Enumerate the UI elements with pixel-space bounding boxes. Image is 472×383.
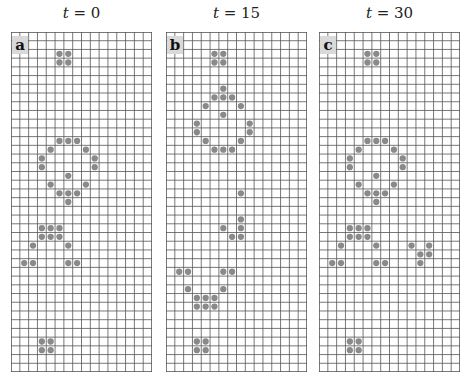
live-cell bbox=[364, 51, 370, 57]
live-cell bbox=[65, 242, 71, 248]
live-cell bbox=[48, 147, 54, 153]
grid-lines bbox=[166, 32, 307, 372]
live-cell bbox=[203, 303, 209, 309]
live-cell bbox=[203, 103, 209, 109]
live-cell bbox=[356, 181, 362, 187]
cell-grid bbox=[166, 32, 307, 372]
live-cell bbox=[373, 199, 379, 205]
live-cell bbox=[56, 234, 62, 240]
live-cell bbox=[211, 147, 217, 153]
panel-c-grid bbox=[319, 32, 460, 372]
live-cell bbox=[203, 347, 209, 353]
panel-b-label: b bbox=[167, 36, 183, 54]
live-cell bbox=[185, 286, 191, 292]
live-cell bbox=[220, 59, 226, 65]
live-cell bbox=[382, 138, 388, 144]
live-cell bbox=[194, 120, 200, 126]
live-cell bbox=[220, 112, 226, 118]
live-cell bbox=[364, 190, 370, 196]
live-cell bbox=[347, 164, 353, 170]
live-cell bbox=[417, 251, 423, 257]
live-cell bbox=[229, 269, 235, 275]
live-cell bbox=[356, 338, 362, 344]
live-cell bbox=[400, 155, 406, 161]
live-cell bbox=[65, 190, 71, 196]
live-cell bbox=[356, 234, 362, 240]
live-cell bbox=[74, 190, 80, 196]
live-cell bbox=[211, 59, 217, 65]
live-cell bbox=[39, 155, 45, 161]
live-cell bbox=[211, 303, 217, 309]
live-cell bbox=[39, 338, 45, 344]
live-cell bbox=[347, 225, 353, 231]
live-cell bbox=[48, 347, 54, 353]
panel-b-title: t = 15 bbox=[166, 4, 307, 26]
live-cell bbox=[39, 234, 45, 240]
live-cell bbox=[211, 51, 217, 57]
live-cell bbox=[39, 225, 45, 231]
live-cell bbox=[373, 59, 379, 65]
live-cell bbox=[65, 199, 71, 205]
live-cell bbox=[356, 347, 362, 353]
live-cell bbox=[194, 303, 200, 309]
live-cell bbox=[220, 225, 226, 231]
live-cell bbox=[176, 269, 182, 275]
live-cell bbox=[347, 234, 353, 240]
live-cell bbox=[30, 242, 36, 248]
panel-a-title: t = 0 bbox=[11, 4, 152, 26]
live-cell bbox=[220, 286, 226, 292]
grid-lines bbox=[11, 32, 152, 372]
live-cell bbox=[74, 138, 80, 144]
live-cell bbox=[229, 94, 235, 100]
live-cell bbox=[65, 173, 71, 179]
live-cell bbox=[194, 295, 200, 301]
live-cell bbox=[229, 147, 235, 153]
live-cell bbox=[220, 86, 226, 92]
live-cell bbox=[338, 242, 344, 248]
live-cell bbox=[48, 225, 54, 231]
live-cell bbox=[356, 225, 362, 231]
live-cell bbox=[238, 225, 244, 231]
live-cell bbox=[364, 225, 370, 231]
live-cell bbox=[220, 269, 226, 275]
time-value: = 0 bbox=[69, 4, 101, 22]
live-cell bbox=[220, 147, 226, 153]
live-cell bbox=[203, 338, 209, 344]
live-cell bbox=[373, 190, 379, 196]
live-cell bbox=[194, 129, 200, 135]
live-cell bbox=[347, 155, 353, 161]
live-cell bbox=[373, 242, 379, 248]
live-cell bbox=[247, 129, 253, 135]
live-cell bbox=[48, 181, 54, 187]
live-cell bbox=[56, 190, 62, 196]
live-cell bbox=[417, 260, 423, 266]
live-cell bbox=[347, 338, 353, 344]
live-cell bbox=[83, 147, 89, 153]
live-cell bbox=[92, 155, 98, 161]
live-cell bbox=[426, 242, 432, 248]
live-cell bbox=[400, 164, 406, 170]
live-cell bbox=[92, 164, 98, 170]
live-cell bbox=[211, 94, 217, 100]
live-cell bbox=[391, 181, 397, 187]
live-cell bbox=[238, 190, 244, 196]
live-cell bbox=[382, 190, 388, 196]
live-cell bbox=[48, 234, 54, 240]
panel-c-label: c bbox=[320, 36, 336, 54]
grid-lines bbox=[319, 32, 460, 372]
live-cell bbox=[185, 269, 191, 275]
live-cell bbox=[373, 173, 379, 179]
live-cell bbox=[21, 260, 27, 266]
live-cell bbox=[65, 51, 71, 57]
live-cell bbox=[56, 138, 62, 144]
live-cell bbox=[194, 347, 200, 353]
live-cell bbox=[382, 260, 388, 266]
live-cell bbox=[74, 260, 80, 266]
live-cell bbox=[39, 347, 45, 353]
live-cell bbox=[65, 59, 71, 65]
live-cell bbox=[247, 120, 253, 126]
live-cell bbox=[30, 260, 36, 266]
live-cell bbox=[356, 147, 362, 153]
live-cell bbox=[220, 94, 226, 100]
panel-a-grid bbox=[11, 32, 152, 372]
